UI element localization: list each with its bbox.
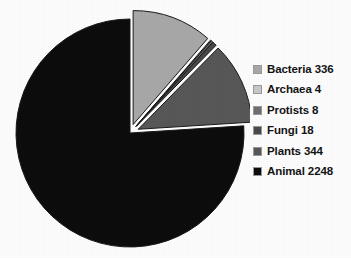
chart-legend: Bacteria 336 Archaea 4 Protists 8 Fungi … (253, 63, 351, 178)
legend-label-protists: Protists 8 (267, 104, 318, 117)
legend-label-plants: Plants 344 (267, 145, 323, 158)
legend-swatch-archaea (253, 85, 262, 94)
legend-item[interactable]: Fungi 18 (253, 124, 351, 137)
legend-swatch-fungi (253, 126, 262, 135)
legend-label-fungi: Fungi 18 (267, 124, 313, 137)
legend-item[interactable]: Bacteria 336 (253, 63, 351, 76)
legend-swatch-bacteria (253, 65, 262, 74)
legend-item[interactable]: Animal 2248 (253, 165, 351, 178)
legend-swatch-protists (253, 106, 262, 115)
pie-chart-plot-area (0, 0, 250, 258)
legend-swatch-animal (253, 167, 262, 176)
pie-slice-animal[interactable] (16, 19, 244, 247)
legend-label-archaea: Archaea 4 (267, 83, 321, 96)
legend-swatch-plants (253, 147, 262, 156)
pie-chart-figure: Bacteria 336 Archaea 4 Protists 8 Fungi … (0, 0, 351, 258)
legend-label-animal: Animal 2248 (267, 165, 333, 178)
legend-item[interactable]: Archaea 4 (253, 83, 351, 96)
legend-label-bacteria: Bacteria 336 (267, 63, 334, 76)
legend-item[interactable]: Plants 344 (253, 145, 351, 158)
pie-chart-svg (0, 0, 250, 258)
legend-item[interactable]: Protists 8 (253, 104, 351, 117)
